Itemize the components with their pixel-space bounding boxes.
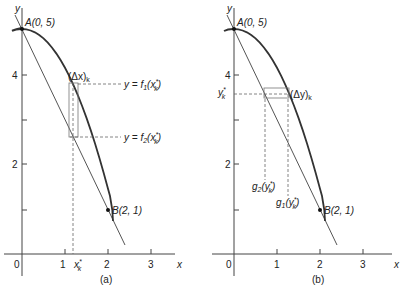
panel-b: 0 1 2 3 x 2 4 y A(0, 5) B(2, 1) (Δy)k y*… xyxy=(212,3,400,285)
strip-rect-b xyxy=(264,88,289,98)
g2-label-b: g2(y*k) xyxy=(252,180,275,194)
point-a-b xyxy=(232,27,236,31)
point-a-label-a: A(0, 5) xyxy=(24,17,55,28)
strip-label-a: (Δx)k xyxy=(68,71,90,83)
x-tick-2-a: 2 xyxy=(104,259,110,270)
x-tick-1-b: 1 xyxy=(274,259,280,270)
y-tick-2-b: 2 xyxy=(225,159,231,170)
point-b-label-a: B(2, 1) xyxy=(112,205,142,216)
figure-canvas: 0 1 2 3 x 2 4 y A(0, 5) B(2, 1) (Δx)k x*… xyxy=(0,0,407,287)
point-b-label-b: B(2, 1) xyxy=(324,205,354,216)
curve-a xyxy=(12,28,113,221)
y-tick-2-a: 2 xyxy=(12,159,18,170)
curve-b xyxy=(224,29,325,221)
x-tick-3-b: 3 xyxy=(360,259,366,270)
y-axis-label-a: y xyxy=(14,3,21,14)
yk-label-b: y*k xyxy=(217,86,226,100)
caption-a: (a) xyxy=(100,274,112,285)
f2-label-a: y = f2(x*k) xyxy=(123,131,161,145)
caption-b: (b) xyxy=(312,274,324,285)
xk-label-a: x*k xyxy=(73,258,82,272)
x-tick-0-b: 0 xyxy=(226,259,232,270)
x-tick-0-a: 0 xyxy=(14,259,20,270)
panel-a: 0 1 2 3 x 2 4 y A(0, 5) B(2, 1) (Δx)k x*… xyxy=(4,3,183,285)
strip-label-b: (Δy)k xyxy=(290,89,312,101)
x-axis-label-a: x xyxy=(176,259,183,270)
x-axis-label-b: x xyxy=(393,259,400,270)
g1-label-b: g1(y*k) xyxy=(276,196,299,210)
point-a-a xyxy=(20,27,24,31)
point-b-b xyxy=(318,208,322,212)
point-b-a xyxy=(106,208,110,212)
y-axis-label-b: y xyxy=(226,3,233,14)
x-tick-2-b: 2 xyxy=(317,259,323,270)
x-tick-3-a: 3 xyxy=(148,259,154,270)
y-tick-4-b: 4 xyxy=(225,70,231,81)
f1-label-a: y = f1(x*k) xyxy=(123,78,161,92)
x-tick-1-a: 1 xyxy=(60,259,66,270)
point-a-label-b: A(0, 5) xyxy=(236,17,267,28)
y-tick-4-a: 4 xyxy=(12,70,18,81)
